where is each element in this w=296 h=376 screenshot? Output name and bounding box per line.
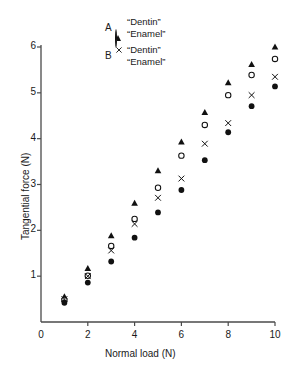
data-point-filled-circle [155, 210, 161, 216]
data-point-filled-triangle [108, 232, 115, 238]
data-point-filled-triangle [155, 167, 162, 173]
data-point-open-circle [226, 92, 231, 97]
data-point-filled-circle [249, 103, 255, 109]
y-tick-label: 4 [24, 132, 36, 143]
data-point-filled-circle [202, 157, 208, 163]
data-point-filled-triangle [61, 293, 68, 299]
x-tick-label: 6 [171, 329, 191, 340]
data-point-filled-circle [225, 129, 231, 135]
y-axis-title: Tangential force (N) [20, 153, 31, 240]
data-point-filled-triangle [84, 265, 91, 271]
data-point-cross-x [85, 273, 91, 279]
data-point-cross-x [108, 248, 114, 254]
data-point-cross-x [155, 195, 161, 201]
data-point-filled-triangle [178, 138, 185, 144]
y-tick-label: 6 [24, 40, 36, 51]
data-point-filled-circle [108, 259, 114, 265]
data-point-cross-x [225, 120, 231, 126]
data-point-filled-circle [272, 84, 278, 90]
scatter-chart-figure: A “Dentin” “Enamel” B [0, 0, 296, 376]
data-point-open-circle [132, 216, 137, 221]
plot-area [0, 0, 296, 376]
data-point-open-circle [62, 297, 67, 302]
y-tick-label: 1 [24, 269, 36, 280]
data-point-open-circle [155, 185, 160, 190]
data-point-cross-x [62, 296, 68, 302]
x-tick-label: 8 [218, 329, 238, 340]
data-point-cross-x [249, 92, 255, 98]
data-point-filled-triangle [131, 200, 138, 206]
data-point-open-circle [249, 72, 254, 77]
x-tick-label: 10 [265, 329, 285, 340]
data-point-filled-triangle [225, 79, 232, 85]
data-point-filled-circle [132, 235, 138, 241]
data-point-open-circle [179, 153, 184, 158]
data-point-cross-x [132, 221, 138, 227]
data-point-open-circle [109, 243, 114, 248]
data-point-filled-triangle [248, 61, 255, 67]
data-point-open-circle [85, 273, 90, 278]
data-point-cross-x [179, 176, 185, 182]
y-tick-label: 5 [24, 86, 36, 97]
data-point-open-circle [272, 56, 277, 61]
x-tick-label: 0 [31, 329, 51, 340]
x-tick-label: 2 [78, 329, 98, 340]
data-point-open-circle [202, 122, 207, 127]
data-point-filled-circle [85, 280, 91, 286]
x-axis-title: Normal load (N) [105, 348, 176, 359]
data-point-filled-circle [179, 187, 185, 193]
data-point-cross-x [202, 141, 208, 147]
data-point-cross-x [272, 74, 278, 80]
data-point-filled-triangle [272, 44, 279, 50]
data-point-filled-circle [62, 300, 68, 306]
data-points [61, 44, 278, 306]
x-tick-label: 4 [125, 329, 145, 340]
data-point-filled-triangle [201, 109, 208, 115]
